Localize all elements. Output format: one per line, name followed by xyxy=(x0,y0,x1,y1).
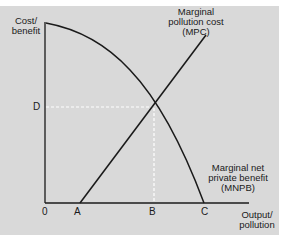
tick-d: D xyxy=(33,101,40,112)
y-axis-label-line2: benefit xyxy=(10,26,42,36)
x-axis-label-line2: pollution xyxy=(234,220,280,230)
mpc-label-line3: (MPC) xyxy=(156,27,236,37)
mnpb-label: Marginal net private benefit (MNPB) xyxy=(196,163,280,193)
chart-plot xyxy=(0,0,281,241)
mpc-line xyxy=(80,35,206,203)
mnpb-curve xyxy=(46,23,204,203)
tick-c: C xyxy=(201,206,208,217)
x-axis-label: Output/ pollution xyxy=(234,210,280,230)
tick-origin: 0 xyxy=(42,206,48,217)
y-axis-label: Cost/ benefit xyxy=(10,16,42,36)
tick-a: A xyxy=(74,206,81,217)
mpc-label: Marginal pollution cost (MPC) xyxy=(156,7,236,37)
tick-b: B xyxy=(149,206,156,217)
mnpb-label-line3: (MNPB) xyxy=(196,183,280,193)
